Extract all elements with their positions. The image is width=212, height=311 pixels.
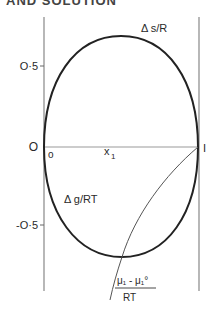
chemical-potential-label: μ₁ - μ₁° RT: [115, 275, 156, 303]
gibbs-curve-label: Δ g/RT: [64, 193, 98, 205]
chemical-potential-numerator: μ₁ - μ₁°: [117, 275, 148, 286]
chemical-potential-denominator: RT: [123, 292, 136, 303]
y-tick-label-0-5: O·5: [20, 60, 38, 72]
entropy-curve: [44, 36, 198, 147]
mixing-diagram: O·5 O -O·5 o I x 1 Δ s/R Δ g/RT μ₁ - μ₁°…: [0, 0, 212, 311]
y-tick-label-neg-0-5: -O·5: [16, 219, 38, 231]
x-variable-letter: x: [104, 145, 110, 157]
x-origin-label: o: [48, 149, 54, 160]
entropy-curve-label: Δ s/R: [141, 22, 167, 34]
y-tick-label-0: O: [29, 140, 38, 154]
x-end-label: I: [203, 142, 206, 154]
x-variable-subscript: 1: [111, 152, 116, 161]
